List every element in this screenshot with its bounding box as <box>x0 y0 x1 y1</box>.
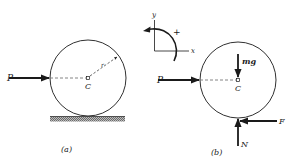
normal-label: N <box>240 140 249 149</box>
weight-label: mg <box>242 56 256 66</box>
rotation-arrowhead-icon <box>143 27 151 33</box>
positive-sign: + <box>173 27 181 37</box>
coordinate-axes: y x + <box>143 11 195 61</box>
center-label-b: C <box>235 84 241 93</box>
center-point-b <box>237 79 240 82</box>
friction-label: F <box>278 117 285 126</box>
y-axis-label: y <box>151 11 157 19</box>
ground-hatch <box>50 117 125 122</box>
center-label-a: C <box>85 82 91 91</box>
radius-label: r <box>101 61 105 68</box>
caption-b: (b) <box>211 148 222 157</box>
caption-a: (a) <box>61 145 72 154</box>
center-point-a <box>87 77 90 80</box>
panel-a: P C r (a) <box>6 40 126 154</box>
diagram-canvas: P C r (a) y x + mg P C F N (b) <box>0 0 289 162</box>
force-p-label-a: P <box>6 73 14 83</box>
force-p-label-b: P <box>156 75 164 85</box>
x-axis-label: x <box>191 47 195 55</box>
